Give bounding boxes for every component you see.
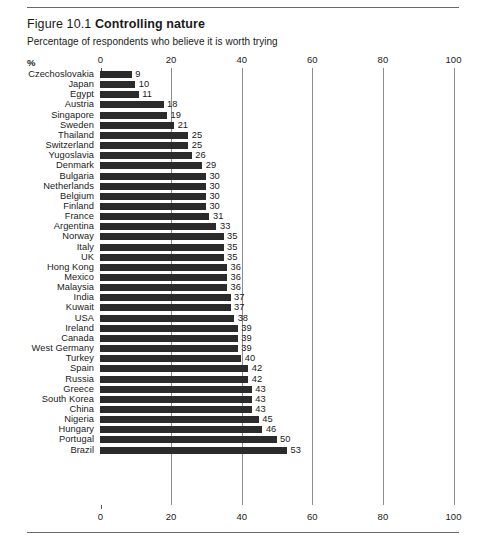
bar	[100, 101, 164, 108]
bar	[100, 447, 287, 454]
axis-label-top-20: 20	[166, 54, 177, 65]
bar	[100, 254, 224, 261]
category-label: Brazil	[70, 445, 94, 455]
axis-label-bottom-40: 40	[236, 511, 247, 522]
bottom-divider	[27, 532, 459, 533]
bar-value-label: 43	[255, 384, 265, 394]
category-label: Turkey	[66, 353, 94, 363]
bar-value-label: 46	[266, 424, 276, 434]
bar-value-label: 25	[192, 130, 202, 140]
bar-value-label: 9	[135, 69, 140, 79]
bar	[100, 436, 277, 443]
category-label: Greece	[63, 384, 94, 394]
category-label: Portugal	[59, 434, 94, 444]
axis-label-bottom-20: 20	[166, 511, 177, 522]
category-label: Italy	[77, 242, 94, 252]
bar	[100, 142, 188, 149]
category-label: Mexico	[64, 272, 94, 282]
bar	[100, 193, 206, 200]
category-label: Yugoslavia	[49, 150, 94, 160]
bar	[100, 71, 132, 78]
category-label: Malaysia	[57, 282, 94, 292]
category-label: Norway	[62, 231, 94, 241]
category-label: Thailand	[58, 130, 94, 140]
bar	[100, 162, 202, 169]
bar	[100, 406, 252, 413]
bar	[100, 416, 259, 423]
bar-value-label: 19	[171, 110, 181, 120]
bar	[100, 112, 167, 119]
bar-value-label: 39	[241, 333, 251, 343]
category-label: Denmark	[56, 160, 94, 170]
bar	[100, 304, 231, 311]
category-label: Finland	[63, 201, 94, 211]
category-label: Singapore	[51, 110, 94, 120]
bar-value-label: 33	[220, 221, 230, 231]
axis-label-top-100: 100	[446, 54, 462, 65]
category-label: Austria	[65, 99, 94, 109]
axis-label-top-60: 60	[307, 54, 318, 65]
axis-label-bottom-60: 60	[307, 511, 318, 522]
category-label: Spain	[70, 363, 94, 373]
bar	[100, 132, 188, 139]
bar-row: Brazil53	[0, 446, 483, 456]
bar	[100, 264, 227, 271]
category-label: Kuwait	[66, 302, 94, 312]
category-label: USA	[75, 313, 94, 323]
bar	[100, 233, 224, 240]
category-label: India	[74, 292, 94, 302]
bar	[100, 244, 224, 251]
bar-value-label: 26	[195, 150, 205, 160]
bar	[100, 376, 248, 383]
category-label: Japan	[68, 79, 94, 89]
category-label: Hong Kong	[47, 262, 94, 272]
axis-label-top-80: 80	[378, 54, 389, 65]
category-label: Russia	[65, 374, 94, 384]
bar	[100, 284, 227, 291]
category-label: Switzerland	[45, 140, 94, 150]
bar	[100, 365, 248, 372]
category-label: France	[65, 211, 94, 221]
bar-value-label: 30	[209, 191, 219, 201]
axis-label-top-40: 40	[236, 54, 247, 65]
bar-value-label: 39	[241, 343, 251, 353]
bar	[100, 426, 262, 433]
category-label: Hungary	[59, 424, 95, 434]
bar-value-label: 43	[255, 404, 265, 414]
bar-value-label: 35	[227, 242, 237, 252]
bar-value-label: 42	[252, 374, 262, 384]
category-label: Egypt	[70, 89, 94, 99]
bar-value-label: 45	[262, 414, 272, 424]
bar	[100, 386, 252, 393]
bar-value-label: 25	[192, 140, 202, 150]
bar-value-label: 30	[209, 201, 219, 211]
bar	[100, 355, 241, 362]
category-label: South Korea	[42, 394, 94, 404]
category-label: Czechoslovakia	[28, 69, 94, 79]
category-label: Nigeria	[64, 414, 94, 424]
category-label: Netherlands	[43, 181, 94, 191]
bar-value-label: 36	[231, 282, 241, 292]
bar-value-label: 35	[227, 231, 237, 241]
bar-value-label: 30	[209, 171, 219, 181]
bar-value-label: 30	[209, 181, 219, 191]
bar-value-label: 53	[291, 445, 301, 455]
bar	[100, 396, 252, 403]
bar	[100, 91, 139, 98]
bar	[100, 223, 216, 230]
category-label: Sweden	[60, 120, 94, 130]
bar-value-label: 31	[213, 211, 223, 221]
bar-row: Norway35	[0, 232, 483, 242]
axis-tick-bottom-0	[101, 505, 102, 509]
bar	[100, 203, 206, 210]
bar-value-label: 50	[280, 434, 290, 444]
bar-value-label: 18	[167, 99, 177, 109]
bar-value-label: 39	[241, 323, 251, 333]
bar-value-label: 37	[234, 302, 244, 312]
category-label: West Germany	[32, 343, 94, 353]
category-label: Ireland	[65, 323, 94, 333]
bar	[100, 183, 206, 190]
bar-chart-plot: 002020404060608080100100Czechoslovakia9J…	[0, 0, 483, 547]
bar	[100, 274, 227, 281]
bar	[100, 213, 209, 220]
